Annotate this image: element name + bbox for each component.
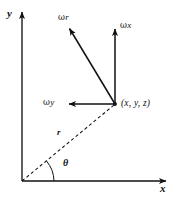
omega-y-component: y [50, 97, 54, 107]
radius-label: r [57, 128, 61, 137]
x-axis-label: x [160, 183, 166, 194]
omega-x-component: x [127, 20, 131, 30]
omega-r-vector [70, 29, 116, 105]
omega-r-label: ωr [58, 13, 69, 22]
radius-line-dashed [22, 105, 114, 181]
omega-x-label: ωx [120, 21, 131, 30]
omega-r-component: r [65, 12, 69, 22]
omega-y-label: ωy [43, 98, 54, 107]
vector-diagram-figure: y x ωr ωx ωy (x, y, z) r θ [0, 0, 177, 197]
diagram-canvas [0, 0, 177, 197]
theta-angle-arc [47, 161, 55, 181]
y-axis-label: y [7, 8, 12, 19]
point-marker [113, 102, 117, 106]
theta-angle-label: θ [63, 158, 68, 168]
point-coordinates-label: (x, y, z) [121, 99, 150, 109]
